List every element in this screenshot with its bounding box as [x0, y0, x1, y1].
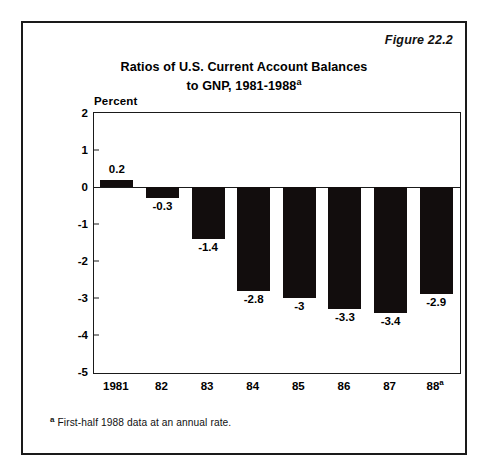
bar — [420, 187, 453, 294]
y-axis-tick-mark — [94, 150, 99, 151]
bar-value-label: -2.8 — [244, 293, 264, 305]
bar-value-label: -2.9 — [426, 296, 446, 308]
y-axis-tick-mark — [94, 335, 99, 336]
bar-value-label: -1.4 — [198, 241, 218, 253]
chart-title-line-1: Ratios of U.S. Current Account Balances — [23, 58, 465, 77]
x-axis-tick-label: 82 — [155, 380, 168, 392]
bar-value-label: -0.3 — [153, 200, 173, 212]
y-axis-tick-mark — [94, 298, 99, 299]
bar — [237, 187, 270, 291]
chart-title-footnote-marker: a — [296, 77, 301, 87]
y-axis-tick-mark — [94, 224, 99, 225]
y-axis-tick-label: -1 — [58, 218, 88, 230]
x-axis-tick-label: 87 — [383, 380, 396, 392]
bar — [374, 187, 407, 313]
y-axis-tick-label: 2 — [58, 107, 88, 119]
y-axis-tick-label: -5 — [58, 366, 88, 378]
plot-wrapper: Percent 210-1-2-3-4-5 0.2-0.3-1.4-2.8-3-… — [72, 112, 461, 403]
x-axis-tick-footnote-marker: a — [439, 378, 443, 387]
bar-value-label: -3.4 — [381, 315, 401, 327]
x-axis-tick-label: 88a — [427, 380, 444, 392]
bar — [192, 187, 225, 239]
plot-area: 210-1-2-3-4-5 0.2-0.3-1.4-2.8-3-3.3-3.4-… — [93, 112, 461, 374]
x-axis-tick-label: 84 — [246, 380, 259, 392]
bar-value-label: -3 — [294, 300, 304, 312]
bar-value-label: -3.3 — [335, 311, 355, 323]
x-axis-tick-label: 85 — [292, 380, 305, 392]
y-axis-unit-label: Percent — [94, 95, 138, 107]
chart-title-line-2-text: to GNP, 1981-1988 — [186, 79, 296, 93]
x-axis-tick-label: 1981 — [103, 380, 129, 392]
footnote: a First-half 1988 data at an annual rate… — [50, 417, 231, 428]
bar-value-label: 0.2 — [109, 163, 125, 175]
footnote-text: First-half 1988 data at an annual rate. — [58, 417, 232, 428]
figure-frame: Figure 22.2 Ratios of U.S. Current Accou… — [21, 21, 467, 455]
y-axis-tick-label: -3 — [58, 292, 88, 304]
y-axis-tick-label: 1 — [58, 144, 88, 156]
chart-title-line-2: to GNP, 1981-1988a — [23, 77, 465, 96]
y-axis-tick-label: -2 — [58, 255, 88, 267]
chart-title: Ratios of U.S. Current Account Balances … — [23, 58, 465, 96]
x-axis-tick-text: 88 — [427, 380, 440, 392]
bar — [283, 187, 316, 298]
bar — [328, 187, 361, 309]
footnote-marker: a — [50, 415, 55, 424]
y-axis-tick-label: 0 — [58, 181, 88, 193]
y-axis-tick-mark — [94, 261, 99, 262]
bar — [146, 187, 179, 198]
x-axis-tick-label: 86 — [338, 380, 351, 392]
figure-number-label: Figure 22.2 — [385, 33, 453, 47]
x-axis-tick-label: 83 — [201, 380, 214, 392]
y-axis-tick-label: -4 — [58, 329, 88, 341]
bar — [100, 180, 133, 187]
